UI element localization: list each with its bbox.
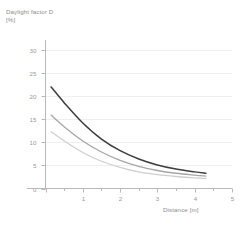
y-tick-label: 0 <box>33 186 37 193</box>
x-tick-label: 3 <box>156 195 160 202</box>
x-tick-label: 2 <box>119 195 123 202</box>
y-tick-label: 5 <box>33 162 37 169</box>
y-tick-label: 15 <box>30 116 37 123</box>
x-tick-label: 5 <box>231 195 235 202</box>
y-tick-label: 20 <box>30 93 37 100</box>
x-tick-label: 1 <box>82 195 86 202</box>
series-line-curve-medium <box>51 115 206 176</box>
data-series <box>51 87 206 178</box>
y-axis-ticks: 051015202530 <box>30 47 46 193</box>
gridlines <box>46 51 233 166</box>
y-tick-label: 30 <box>30 47 37 54</box>
series-line-curve-dark <box>51 87 206 173</box>
x-tick-label: 4 <box>194 195 198 202</box>
daylight-factor-chart: Daylight factor D[%] Distance [m] 051015… <box>0 0 250 233</box>
y-tick-label: 10 <box>30 139 37 146</box>
plot-area: 051015202530 12345 <box>0 0 250 233</box>
y-tick-label: 25 <box>30 70 37 77</box>
x-axis-ticks: 12345 <box>47 189 235 202</box>
